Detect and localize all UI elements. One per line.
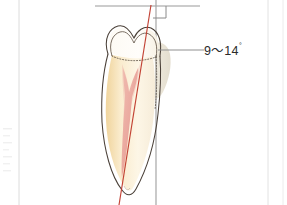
angle-annotation: 9〜14 ° [204, 42, 242, 58]
tooth-inclination-figure: 9〜14 ° [0, 0, 287, 205]
page-edge-artifacts [3, 128, 12, 171]
figure-root: 9〜14 ° [0, 0, 287, 205]
maxillary-incisor [102, 26, 161, 195]
right-angle-marker [153, 6, 166, 18]
dentin-body [106, 52, 155, 191]
degree-symbol: ° [239, 42, 242, 49]
angle-label: 9〜14 [204, 44, 239, 58]
